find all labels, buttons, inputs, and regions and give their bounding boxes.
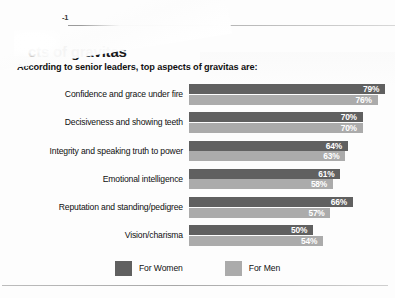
bar-value-label: 61%: [318, 169, 334, 179]
bar-women: [189, 84, 385, 94]
bar-row: 54%: [0, 236, 395, 246]
bar-row: 57%: [0, 208, 395, 218]
bar-group: Integrity and speaking truth to power64%…: [0, 140, 395, 168]
bar-value-label: 79%: [363, 84, 379, 94]
bar-men: [189, 95, 378, 105]
bar-women: [189, 112, 363, 122]
bar-group: Decisiveness and showing teeth70%70%: [0, 111, 395, 139]
bar-chart-plot-area: Confidence and grace under fire79%76%Dec…: [0, 83, 395, 253]
bar-row: 70%: [0, 112, 395, 122]
bar-value-label: 70%: [341, 123, 357, 133]
bar-men: [189, 123, 363, 133]
bar-row: 79%: [0, 84, 395, 94]
bar-row: 70%: [0, 123, 395, 133]
bar-row: 66%: [0, 197, 395, 207]
legend-label: For Women: [139, 263, 183, 273]
bar-value-label: 76%: [356, 95, 372, 105]
page-number-marker: -1: [62, 13, 68, 22]
bar-value-label: 64%: [326, 141, 342, 151]
bar-group: Emotional intelligence61%58%: [0, 168, 395, 196]
legend-item: For Men: [225, 261, 280, 276]
bar-group: Reputation and standing/pedigree66%57%: [0, 196, 395, 224]
bar-row: 64%: [0, 141, 395, 151]
chart-legend: For WomenFor Men: [0, 258, 395, 278]
legend-swatch: [225, 261, 242, 276]
legend-swatch: [115, 261, 132, 276]
bar-row: 58%: [0, 179, 395, 189]
bar-value-label: 63%: [323, 151, 339, 161]
bar-women: [189, 197, 353, 207]
legend-label: For Men: [249, 263, 280, 273]
chart-title: cts of gravitas: [28, 43, 127, 60]
bar-row: 50%: [0, 225, 395, 235]
bar-value-label: 57%: [308, 208, 324, 218]
bar-value-label: 50%: [291, 225, 307, 235]
footer-divider-rule: [2, 285, 388, 286]
bar-value-label: 66%: [331, 197, 347, 207]
bar-women: [189, 141, 348, 151]
header-divider-rule: [68, 25, 395, 26]
bar-row: 63%: [0, 151, 395, 161]
bar-group: Vision/charisma50%54%: [0, 224, 395, 252]
bar-men: [189, 151, 345, 161]
bar-value-label: 58%: [311, 179, 327, 189]
bar-value-label: 54%: [301, 236, 317, 246]
bar-value-label: 70%: [341, 112, 357, 122]
bar-row: 61%: [0, 169, 395, 179]
chart-subtitle: According to senior leaders, top aspects…: [17, 62, 257, 72]
legend-item: For Women: [115, 261, 183, 276]
bar-row: 76%: [0, 95, 395, 105]
bar-group: Confidence and grace under fire79%76%: [0, 83, 395, 111]
